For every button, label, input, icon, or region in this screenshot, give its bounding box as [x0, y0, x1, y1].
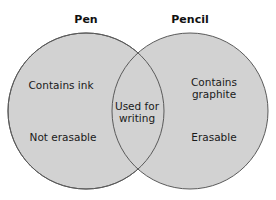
- pen-set-title: Pen: [74, 14, 97, 26]
- pen-item-contains-ink: Contains ink: [29, 79, 94, 91]
- pencil-item-line-1: Contains: [191, 76, 237, 88]
- shared-item-used-for-writing: Used for writing: [115, 100, 159, 124]
- shared-item-line-1: Used for: [115, 100, 159, 112]
- pencil-item-line-2: graphite: [191, 88, 237, 100]
- pencil-set-title: Pencil: [171, 14, 208, 26]
- pen-item-not-erasable: Not erasable: [30, 131, 97, 143]
- pencil-item-erasable: Erasable: [191, 131, 236, 143]
- venn-diagram: Pen Pencil Contains ink Not erasable Use…: [0, 0, 276, 200]
- shared-item-line-2: writing: [115, 112, 159, 124]
- pencil-item-contains-graphite: Contains graphite: [191, 76, 237, 100]
